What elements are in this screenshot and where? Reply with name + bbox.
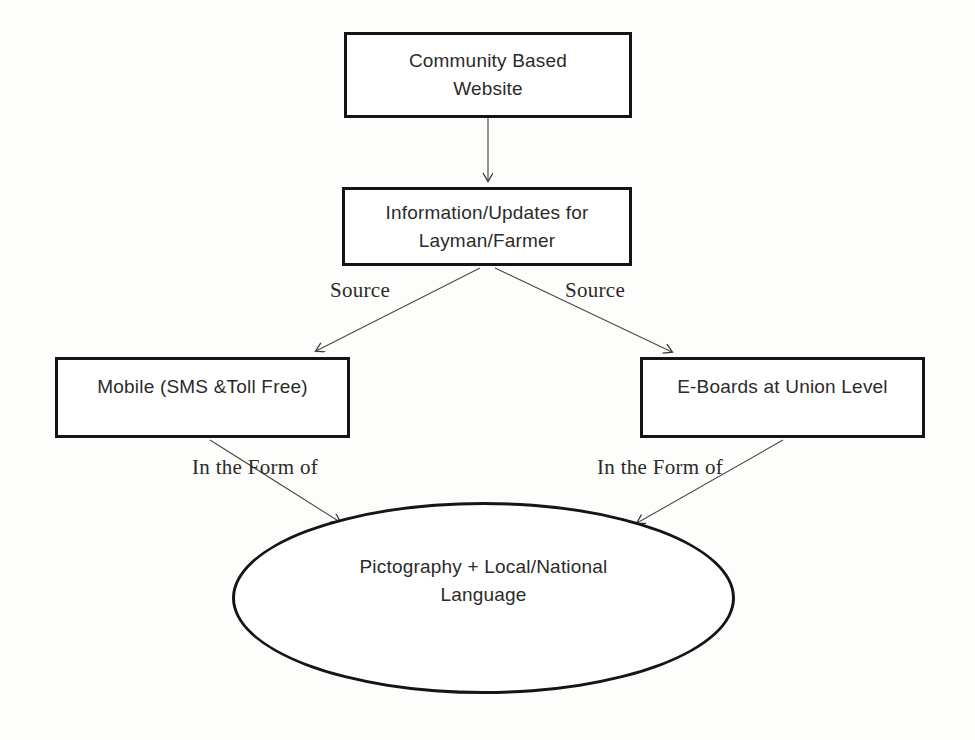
node-label: E-Boards at Union Level bbox=[667, 373, 898, 401]
edge-eboards-to-output bbox=[637, 440, 783, 523]
diagram-canvas: Community BasedWebsite Information/Updat… bbox=[0, 0, 975, 740]
edge-mobile-to-output bbox=[210, 440, 340, 522]
node-label-line1: Community Based bbox=[409, 50, 567, 71]
node-label-line2: Layman/Farmer bbox=[419, 230, 556, 251]
edge-label-in-the-form-of-right: In the Form of bbox=[597, 455, 723, 480]
node-information-updates[interactable]: Information/Updates forLayman/Farmer bbox=[342, 187, 632, 266]
edge-label-source-left: Source bbox=[330, 278, 390, 303]
node-label-line1: Information/Updates for bbox=[385, 202, 588, 223]
node-label: Information/Updates forLayman/Farmer bbox=[375, 199, 598, 254]
node-e-boards-at-union-level[interactable]: E-Boards at Union Level bbox=[640, 357, 925, 438]
edge-label-in-the-form-of-left: In the Form of bbox=[192, 455, 318, 480]
node-pictography-local-national-language[interactable]: Pictography + Local/NationalLanguage bbox=[232, 502, 735, 694]
node-label: Community BasedWebsite bbox=[399, 47, 577, 102]
node-mobile-sms-toll-free[interactable]: Mobile (SMS &Toll Free) bbox=[55, 357, 350, 438]
node-label-line2: Website bbox=[453, 78, 523, 99]
node-label-line1: Pictography + Local/National bbox=[360, 556, 608, 577]
node-label: Pictography + Local/NationalLanguage bbox=[300, 553, 668, 610]
node-label: Mobile (SMS &Toll Free) bbox=[87, 373, 317, 401]
edge-label-source-right: Source bbox=[565, 278, 625, 303]
node-community-based-website[interactable]: Community BasedWebsite bbox=[344, 32, 632, 118]
node-label-line2: Language bbox=[440, 584, 526, 605]
